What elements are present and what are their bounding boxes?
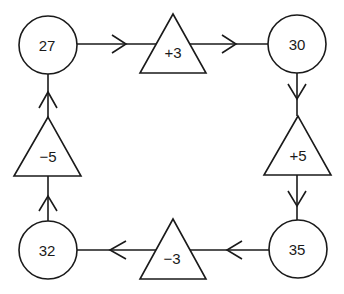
operation-minus-3: −3 (140, 219, 206, 279)
connector-minus3-to-32 (77, 241, 156, 259)
connector-30-to-plus5 (288, 73, 306, 116)
connector-27-to-plus3 (77, 35, 156, 53)
node-label: 30 (289, 36, 306, 53)
connector-32-to-minus5 (39, 176, 57, 221)
cycle-diagram: 27 30 35 32 +3 +5 −3 −5 (0, 0, 344, 294)
triangle-shape (14, 117, 81, 176)
connector-35-to-minus3 (190, 241, 269, 259)
connector-minus5-to-27 (39, 74, 57, 117)
operation-label: +3 (164, 44, 181, 61)
triangle-shape (264, 116, 331, 175)
node-label: 27 (39, 37, 56, 54)
node-35: 35 (269, 220, 327, 278)
operation-label: +5 (289, 147, 306, 164)
connector-plus3-to-30 (190, 35, 268, 53)
node-30: 30 (268, 15, 326, 73)
node-27: 27 (19, 16, 77, 74)
node-label: 32 (39, 242, 56, 259)
connector-plus5-to-35 (288, 175, 306, 220)
node-32: 32 (19, 221, 77, 279)
operation-label: −5 (39, 148, 56, 165)
operation-minus-5: −5 (14, 117, 81, 176)
node-label: 35 (289, 241, 306, 258)
operation-label: −3 (163, 250, 180, 267)
operation-plus-5: +5 (264, 116, 331, 175)
